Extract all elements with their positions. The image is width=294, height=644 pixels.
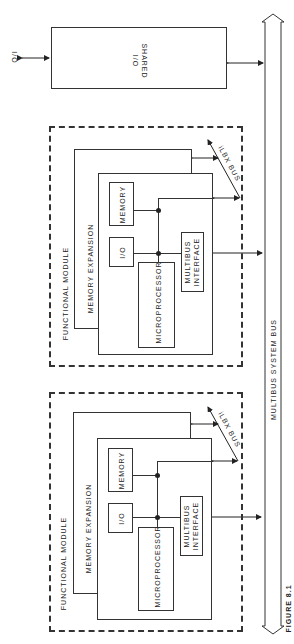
figure-caption: FIGURE 8.1 [285, 569, 292, 644]
microprocessor-block: MICROPROCESSOR [138, 527, 174, 611]
junction-dot [155, 515, 160, 520]
memory-block: MEMORY [108, 448, 133, 492]
module-title: FUNCTIONAL MODULE [62, 234, 69, 354]
memory-block: MEMORY [109, 182, 134, 226]
shared-io-block: SHARED I/O [51, 27, 227, 89]
external-io-label: I/O [10, 48, 19, 68]
junction-dot [156, 208, 161, 213]
junction-dot [156, 251, 161, 256]
io-block: I/O [108, 503, 133, 533]
microprocessor-block: MICROPROCESSOR [138, 262, 175, 348]
multibus-interface-block: MULTIBUSINTERFACE [181, 232, 204, 292]
multibus-interface-block: MULTIBUSINTERFACE [180, 496, 203, 556]
shared-io-label: SHARED I/O [131, 31, 149, 91]
io-block: I/O [109, 237, 134, 267]
module-title: FUNCTIONAL MODULE [60, 504, 67, 624]
memory-expansion-label: MEMORY EXPANSION [85, 469, 92, 589]
memory-expansion-label: MEMORY EXPANSION [87, 209, 94, 329]
system-bus-label: MULTIBUS SYSTEM BUS [270, 310, 277, 430]
junction-dot [155, 473, 160, 478]
